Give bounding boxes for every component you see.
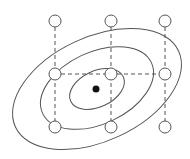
sample-point [159,68,171,80]
sample-point [49,68,61,80]
sample-point [49,121,61,133]
optimum-dot [93,86,100,93]
contour-grid-diagram [0,0,190,159]
sample-point [105,121,117,133]
sample-point [105,68,117,80]
optimum-point [93,86,100,93]
sample-point [49,15,61,27]
contour-outer [0,4,190,159]
sample-point [159,15,171,27]
contour-ellipses [0,4,190,159]
sample-point [159,121,171,133]
sample-point [105,15,117,27]
